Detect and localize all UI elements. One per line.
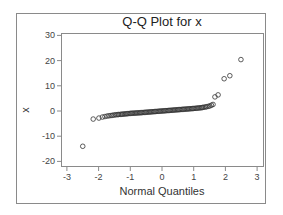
- y-tick-label: -10: [42, 131, 55, 141]
- x-tick-label: -3: [63, 172, 71, 182]
- x-tick-label: -1: [126, 172, 134, 182]
- x-tick-label: 1: [191, 172, 196, 182]
- y-tick-label: -20: [42, 156, 55, 166]
- data-point-marker: [228, 73, 233, 78]
- data-point-marker: [239, 57, 244, 62]
- y-tick-label: 30: [45, 30, 55, 40]
- data-point-marker: [80, 144, 85, 149]
- y-tick-label: 0: [50, 106, 55, 116]
- x-axis-ticks: -3-2-10123: [63, 167, 260, 183]
- y-axis-ticks: -20-100102030: [42, 30, 62, 166]
- x-tick-label: 0: [159, 172, 164, 182]
- data-point-marker: [222, 76, 227, 81]
- y-tick-label: 10: [45, 81, 55, 91]
- x-tick-label: 2: [223, 172, 228, 182]
- data-point-marker: [91, 117, 96, 122]
- y-tick-label: 20: [45, 56, 55, 66]
- qq-plot-area: -20-100102030 -3-2-10123: [0, 0, 283, 215]
- x-tick-label: -2: [95, 172, 103, 182]
- x-tick-label: 3: [255, 172, 260, 182]
- data-points: [80, 57, 243, 148]
- plot-axes-box: [62, 34, 264, 167]
